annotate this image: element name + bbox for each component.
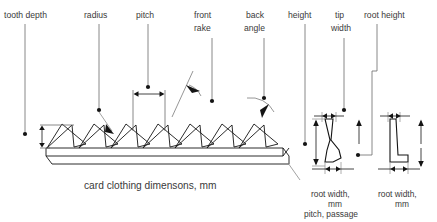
- label-radius: radius: [84, 10, 107, 20]
- dot-pitch: [146, 85, 150, 89]
- profile-left-label-1: root width,: [311, 189, 350, 199]
- saw-teeth: [47, 124, 278, 148]
- profile-right-label-1: root width,: [378, 189, 417, 199]
- height-dimension-left: [312, 119, 362, 166]
- profile-left-group: root width, mm pitch, passage: [304, 112, 362, 219]
- label-back-angle-line2: angle: [244, 23, 265, 33]
- radius-arrowhead: [105, 124, 114, 134]
- card-clothing-diagram: tooth depth radius pitch front rake back…: [0, 0, 437, 222]
- dot-root-height: [356, 153, 360, 157]
- profile-right-label-2: mm: [395, 199, 409, 209]
- card-clothing-base: [46, 148, 289, 164]
- base-pointer: [288, 163, 300, 180]
- label-tip-width-line1: tip: [335, 10, 344, 20]
- angle-indicators: [172, 71, 274, 117]
- dot-front-rake: [210, 99, 214, 103]
- tip-width-dimension-right: [380, 112, 410, 122]
- diagram-caption: card clothing dimensons, mm: [84, 180, 217, 191]
- label-back-angle-line1: back: [246, 10, 265, 20]
- pitch-dimension: [133, 90, 165, 131]
- label-tip-width-line2: width: [330, 23, 351, 33]
- dot-radius: [97, 108, 101, 112]
- dot-height: [303, 142, 307, 146]
- dot-back-angle: [262, 96, 266, 100]
- profile-left-label-2: mm: [328, 199, 342, 209]
- root-width-dimension-left: [312, 162, 354, 174]
- profile-left-label-3: pitch, passage: [304, 209, 358, 219]
- label-pitch: pitch: [136, 10, 154, 20]
- angle-arrowheads: [186, 85, 269, 118]
- diagram-canvas: tooth depth radius pitch front rake back…: [0, 0, 437, 222]
- leader-root-height: [358, 24, 377, 155]
- height-dimension-right: [418, 120, 424, 168]
- label-root-height: root height: [364, 10, 405, 20]
- top-label-texts: tooth depth radius pitch front rake back…: [4, 10, 405, 33]
- front-rake-ref-line: [172, 71, 193, 117]
- label-height: height: [288, 10, 312, 20]
- profile-right-group: root width, mm: [378, 112, 424, 209]
- tooth-1: [47, 124, 86, 148]
- profile-right-outline: [390, 119, 408, 162]
- leader-dots: [23, 85, 360, 157]
- label-front-rake-line2: rake: [194, 23, 211, 33]
- label-front-rake-line1: front: [194, 10, 212, 20]
- dot-tooth-depth: [23, 132, 27, 136]
- tip-width-dimension-left: [314, 112, 344, 122]
- profile-left-outline: [325, 119, 341, 162]
- dot-tip-width: [342, 108, 346, 112]
- label-tooth-depth: tooth depth: [4, 10, 47, 20]
- back-angle-arrowhead: [260, 104, 269, 118]
- root-width-dimension-right: [378, 162, 420, 174]
